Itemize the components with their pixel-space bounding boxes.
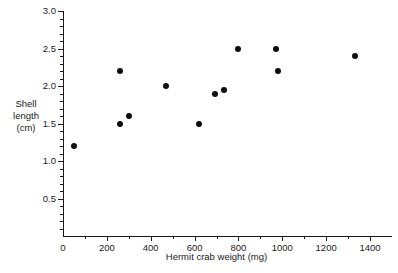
x-axis-title: Hermit crab weight (mg) (63, 252, 370, 262)
y-axis-minor-tick (60, 154, 63, 155)
y-axis-minor-tick (60, 221, 63, 222)
y-axis-major-tick (58, 161, 63, 162)
data-point (352, 53, 358, 59)
y-axis-minor-tick (60, 176, 63, 177)
x-axis-minor-tick (85, 236, 86, 239)
y-axis-minor-tick (60, 26, 63, 27)
y-axis-minor-tick (60, 169, 63, 170)
x-axis-major-tick (370, 236, 371, 241)
y-axis-tick-label: 3.0 (43, 6, 56, 16)
y-axis-minor-tick (60, 71, 63, 72)
y-axis-minor-tick (60, 116, 63, 117)
data-point (212, 91, 218, 97)
y-axis-title-line-3: (cm) (2, 122, 50, 134)
y-axis-minor-tick (60, 94, 63, 95)
y-axis-title-line-2: length (2, 110, 50, 122)
y-axis-minor-tick (60, 64, 63, 65)
y-axis-minor-tick (60, 229, 63, 230)
data-point (273, 46, 279, 52)
x-axis-minor-tick (348, 236, 349, 239)
x-axis-major-tick (195, 236, 196, 241)
y-axis-minor-tick (60, 206, 63, 207)
y-axis-major-tick (58, 86, 63, 87)
data-point (275, 68, 281, 74)
y-axis-major-tick (58, 49, 63, 50)
x-axis-major-tick (238, 236, 239, 241)
plot-area: 0.51.01.52.02.53.0 020040060080010001200… (63, 11, 370, 236)
y-axis-minor-tick (60, 109, 63, 110)
y-axis-minor-tick (60, 214, 63, 215)
x-axis-major-tick (151, 236, 152, 241)
y-axis-tick-label: 2.0 (43, 81, 56, 91)
data-point (117, 121, 123, 127)
y-axis-minor-tick (60, 184, 63, 185)
x-axis-minor-tick (260, 236, 261, 239)
x-axis-minor-tick (129, 236, 130, 239)
data-point (117, 68, 123, 74)
data-point (71, 143, 77, 149)
y-axis-major-tick (58, 199, 63, 200)
y-axis-minor-tick (60, 146, 63, 147)
y-axis-title: Shell length (cm) (2, 98, 50, 134)
data-point (196, 121, 202, 127)
y-axis-major-tick (58, 11, 63, 12)
y-axis-minor-tick (60, 19, 63, 20)
y-axis-minor-tick (60, 34, 63, 35)
y-axis-minor-tick (60, 139, 63, 140)
data-point (221, 87, 227, 93)
data-point (163, 83, 169, 89)
y-axis-line (63, 11, 64, 237)
x-axis-minor-tick (217, 236, 218, 239)
y-axis-minor-tick (60, 79, 63, 80)
data-point (235, 46, 241, 52)
x-axis-line (63, 236, 392, 237)
x-axis-minor-tick (304, 236, 305, 239)
data-point (126, 113, 132, 119)
y-axis-minor-tick (60, 191, 63, 192)
y-axis-tick-label: 1.0 (43, 156, 56, 166)
y-axis-tick-label: 2.5 (43, 44, 56, 54)
y-axis-major-tick (58, 124, 63, 125)
x-axis-major-tick (107, 236, 108, 241)
y-axis-title-line-1: Shell (2, 98, 50, 110)
y-axis-minor-tick (60, 56, 63, 57)
x-axis-major-tick (326, 236, 327, 241)
y-axis-minor-tick (60, 131, 63, 132)
y-axis-minor-tick (60, 101, 63, 102)
y-axis-tick-label: 0.5 (43, 194, 56, 204)
scatter-plot-figure: 0.51.01.52.02.53.0 020040060080010001200… (0, 0, 398, 273)
x-axis-minor-tick (173, 236, 174, 239)
x-axis-major-tick (282, 236, 283, 241)
y-axis-minor-tick (60, 41, 63, 42)
